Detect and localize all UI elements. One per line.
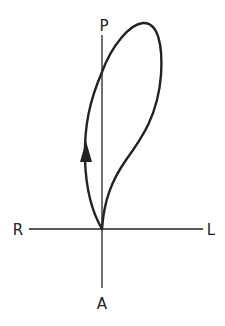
diagram-canvas: [0, 0, 225, 326]
axis-label-a: A: [97, 297, 107, 312]
axis-label-r: R: [13, 223, 23, 238]
axis-label-p: P: [99, 19, 108, 34]
loop-curve: [85, 23, 162, 229]
direction-arrow-icon: [80, 141, 92, 162]
axis-label-l: L: [207, 223, 215, 238]
vector-loop-diagram: P A R L: [0, 0, 225, 326]
